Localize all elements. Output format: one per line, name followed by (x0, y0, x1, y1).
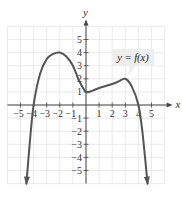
x-tick-labels: −5−4−3−2−112345 (13, 108, 154, 119)
x-tick-label: −3 (39, 108, 50, 119)
y-tick-label: 5 (77, 34, 82, 45)
y-tick-label: −1 (71, 113, 82, 124)
x-tick-label: 3 (123, 108, 128, 119)
x-tick-label: −5 (13, 108, 24, 119)
function-label: y = f(x) (112, 49, 154, 75)
y-tick-label: 3 (77, 60, 82, 71)
x-tick-label: 1 (97, 108, 102, 119)
y-tick-label: −3 (71, 139, 82, 150)
y-tick-label: −5 (71, 165, 82, 176)
function-label-pointer (128, 66, 136, 75)
y-tick-label: −2 (71, 126, 82, 137)
y-tick-label: 4 (77, 47, 82, 58)
y-axis-label: y (82, 6, 88, 18)
x-axis-label: x (175, 98, 181, 110)
y-tick-label: 1 (77, 86, 82, 97)
function-label-text: y = f(x) (116, 52, 149, 64)
x-tick-label: −2 (52, 108, 63, 119)
y-tick-label: −4 (71, 152, 82, 163)
y-axis-arrow-icon (84, 19, 89, 25)
curve-end-arrows (24, 176, 150, 185)
x-tick-label: 5 (149, 108, 154, 119)
x-tick-label: 2 (110, 108, 115, 119)
function-graph: −5−4−3−2−112345 −5−4−3−2−112345 x y y = … (0, 0, 182, 197)
x-axis-arrow-icon (167, 103, 173, 108)
axes (7, 19, 172, 183)
